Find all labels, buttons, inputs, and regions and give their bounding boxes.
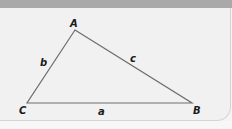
triangle-diagram: A B C a b c xyxy=(0,0,232,129)
triangle-abc xyxy=(27,30,192,103)
side-label-b: b xyxy=(40,57,47,68)
side-label-a: a xyxy=(98,106,105,117)
side-label-c: c xyxy=(130,53,136,64)
vertex-label-b: B xyxy=(193,105,201,116)
vertex-label-a: A xyxy=(69,18,78,29)
vertex-label-c: C xyxy=(19,105,27,116)
